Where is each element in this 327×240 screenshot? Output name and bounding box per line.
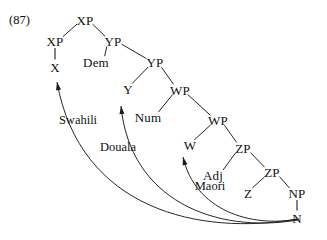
- branch-xp_top-to-xp_spec: [63, 24, 77, 36]
- tree-node-zp_low: ZP: [264, 166, 280, 179]
- tree-node-w_head: W: [184, 139, 196, 152]
- tree-node-y_head: Y: [123, 83, 133, 96]
- branch-zp_low-to-z_head: [253, 177, 265, 188]
- tree-node-wp_low: WP: [208, 114, 228, 127]
- tree-node-wp_hi: WP: [170, 84, 190, 97]
- branch-wp_hi-to-wp_low: [188, 95, 210, 115]
- branch-yp_low-to-y_head: [132, 67, 148, 83]
- tree-node-dem: Dem: [83, 56, 109, 69]
- tree-node-np: NP: [288, 187, 305, 200]
- language-label-arc_douala: Douala: [100, 141, 136, 154]
- tree-node-yp_comp: YP: [104, 35, 121, 48]
- arrowhead-arc_maori: [183, 157, 188, 165]
- movement-arcs: [56, 82, 299, 224]
- branch-zp_hi-to-zp_low: [251, 153, 265, 167]
- tree-node-xp_spec: XP: [46, 35, 63, 48]
- branch-yp_comp-to-yp_low: [122, 44, 146, 58]
- branch-zp_hi-to-adj: [223, 153, 235, 170]
- language-label-arc_maori: Maori: [195, 180, 226, 193]
- tree-node-z_head: Z: [244, 187, 252, 200]
- language-label-arc_swahili: Swahili: [59, 114, 97, 127]
- syntax-tree-diagram: (87) XPXPXYPDemYPYWPNumWPWZPAdjZPZNPN Sw…: [0, 0, 327, 240]
- tree-node-yp_low: YP: [146, 56, 163, 69]
- tree-node-xp_top: XP: [76, 14, 93, 27]
- tree-node-x_head: X: [50, 61, 60, 74]
- arrowhead-arc_douala: [119, 106, 124, 114]
- tree-node-zp_hi: ZP: [235, 142, 251, 155]
- branch-xp_top-to-yp_comp: [93, 25, 105, 37]
- tree-node-n_head: N: [292, 212, 302, 225]
- movement-arc-arc_swahili: [57, 82, 297, 224]
- tree-node-num: Num: [135, 111, 162, 124]
